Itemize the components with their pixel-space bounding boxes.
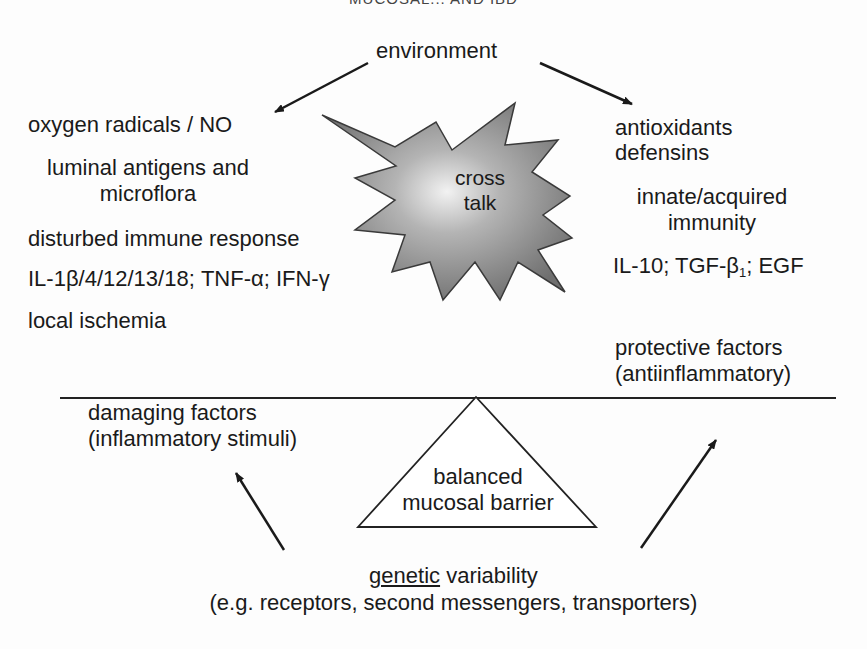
genetic-variability-label: genetic variability — [0, 563, 867, 589]
right-item-immunity: immunity — [612, 210, 812, 236]
left-item-microflora: microflora — [28, 181, 268, 207]
left-item-luminal-antigens: luminal antigens and — [28, 155, 268, 181]
left-item-oxygen-radicals: oxygen radicals / NO — [28, 112, 232, 138]
environment-label: environment — [376, 38, 497, 64]
arrow-environment-left — [275, 63, 368, 112]
right-item-defensins: defensins — [615, 140, 709, 166]
genetic-examples-label: (e.g. receptors, second messengers, tran… — [0, 590, 867, 616]
left-item-disturbed-immune: disturbed immune response — [28, 226, 299, 252]
cross-talk-label: cross talk — [430, 165, 530, 215]
genetic-underlined: genetic — [369, 563, 440, 588]
inflammatory-stimuli-label: (inflammatory stimuli) — [88, 426, 297, 452]
right-item-cytokines: IL-10; TGF-β1; EGF — [613, 253, 804, 279]
right-item-antioxidants: antioxidants — [615, 115, 732, 141]
fulcrum-label-line1: balanced — [378, 464, 578, 490]
protective-factors-label: protective factors — [615, 335, 783, 361]
right-item-innate-acquired: innate/acquired — [612, 184, 812, 210]
left-item-cytokines: IL-1β/4/12/13/18; TNF-α; IFN-γ — [28, 266, 330, 292]
arrow-genetic-right — [641, 440, 716, 548]
damaging-factors-label: damaging factors — [88, 400, 257, 426]
cross-talk-line2: talk — [430, 190, 530, 215]
arrow-genetic-left — [236, 473, 284, 550]
cross-talk-line1: cross — [430, 165, 530, 190]
left-item-local-ischemia: local ischemia — [28, 308, 166, 334]
antiinflammatory-label: (antiinflammatory) — [615, 361, 791, 387]
arrow-environment-right — [540, 63, 632, 104]
fulcrum-label-line2: mucosal barrier — [378, 490, 578, 516]
